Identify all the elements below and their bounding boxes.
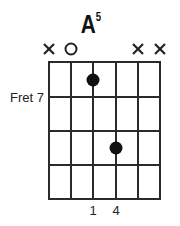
- fretboard-grid: [48, 62, 161, 199]
- finger-label-string-3: 1: [86, 203, 100, 218]
- mute-marker-string-1: [44, 44, 54, 54]
- open-marker-string-2: [66, 44, 77, 55]
- chord-diagram: [0, 0, 180, 226]
- finger-label-string-4: 4: [109, 203, 123, 218]
- fret-position-label: Fret 7: [10, 90, 44, 105]
- mute-marker-string-5: [133, 44, 143, 54]
- mute-marker-string-6: [155, 44, 165, 54]
- finger-dot-string-4: [110, 142, 123, 155]
- finger-dot-string-3: [87, 74, 100, 87]
